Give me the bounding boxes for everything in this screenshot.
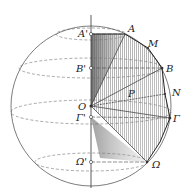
label-A-prime: A' [77, 28, 88, 39]
label-A: A [127, 23, 135, 34]
label-B-prime: B' [75, 63, 86, 74]
label-O: O [78, 101, 86, 112]
label-Omega-prime: Ω' [75, 156, 87, 167]
label-Gamma-prime: Γ' [75, 112, 86, 123]
label-P: P [127, 88, 135, 99]
label-N: N [171, 87, 182, 98]
label-M: M [147, 38, 159, 49]
sphere-diagram: A' A M B' B P N O Γ' Γ Ω' Ω [0, 0, 190, 193]
label-B: B [165, 63, 173, 74]
label-Gamma: Γ [172, 113, 181, 124]
label-Omega: Ω [151, 159, 160, 170]
